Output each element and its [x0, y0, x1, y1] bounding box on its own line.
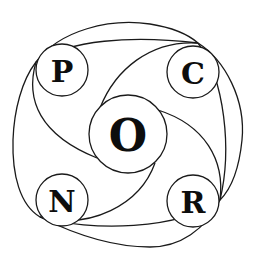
- node-c: C: [167, 46, 219, 98]
- node-r-label: R: [181, 185, 207, 220]
- node-o: O: [89, 95, 167, 173]
- node-n: N: [36, 174, 88, 226]
- node-c-label: C: [181, 56, 205, 91]
- node-n-label: N: [48, 184, 75, 219]
- node-r: R: [167, 175, 219, 227]
- node-o-label: O: [109, 110, 147, 161]
- pinwheel-diagram: P C O N R: [0, 0, 258, 258]
- node-p-label: P: [51, 54, 74, 89]
- node-p: P: [36, 44, 88, 96]
